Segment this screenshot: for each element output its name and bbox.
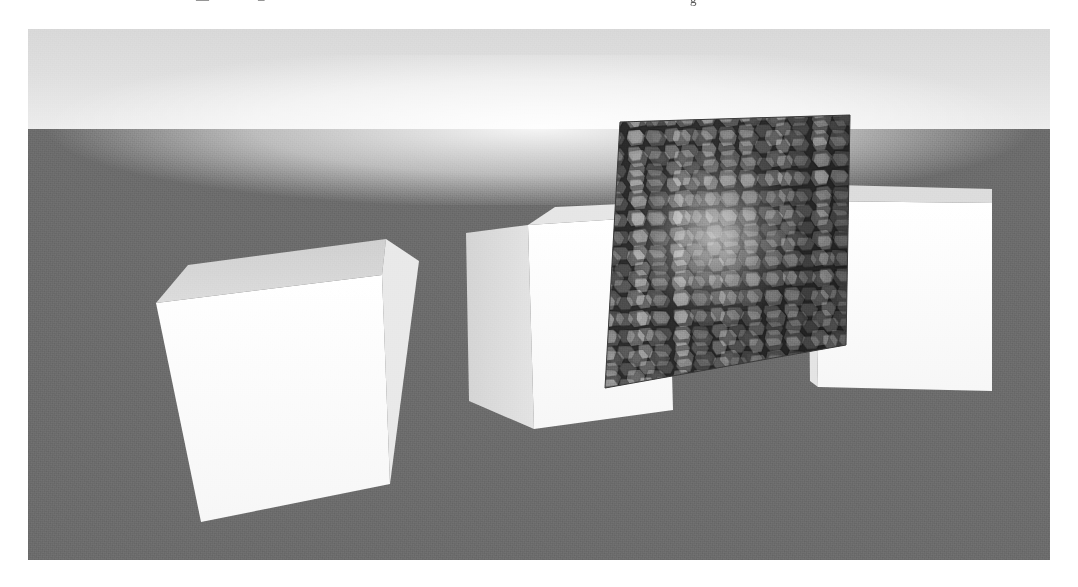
text-fragment-2: – xyxy=(258,0,265,7)
text-fragment-3: g xyxy=(690,0,697,7)
text-fragment-1: — xyxy=(196,0,209,7)
rendered-scene-viewport xyxy=(28,29,1050,560)
box-left xyxy=(156,239,419,522)
cropped-text-line-above-figure: — – g xyxy=(0,0,1078,12)
scene-geometry xyxy=(28,29,1050,560)
